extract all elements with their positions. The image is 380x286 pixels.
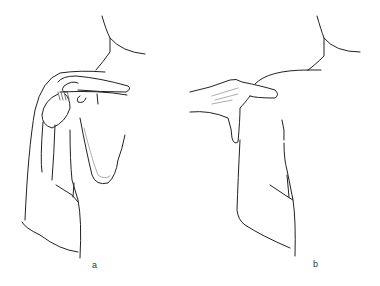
panel-a-label: a	[92, 260, 97, 270]
panel-a-drawing	[22, 16, 145, 258]
figure	[0, 0, 380, 286]
illustration-svg	[0, 0, 380, 286]
panel-b-label: b	[313, 259, 318, 269]
panel-b-drawing	[190, 16, 360, 256]
